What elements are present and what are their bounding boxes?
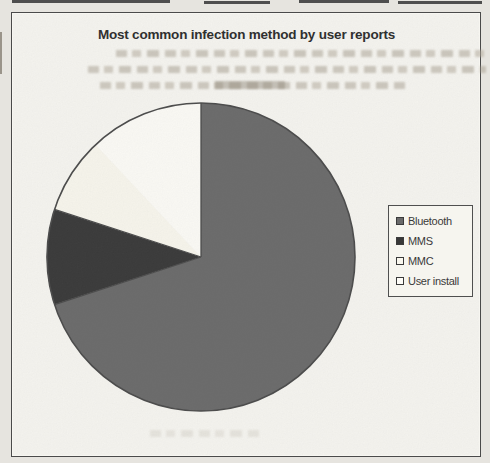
legend-item-bluetooth: Bluetooth: [396, 215, 468, 227]
legend-item-mmc: MMC: [396, 255, 468, 267]
bleedthrough-text-blob: [215, 81, 285, 89]
scan-artifact: [299, 0, 389, 3]
legend-label: MMS: [408, 235, 433, 247]
legend-swatch-mmc: [396, 257, 404, 265]
legend-swatch-user-install: [396, 277, 404, 285]
legend-swatch-mms: [396, 237, 404, 245]
chart-title: Most common infection method by user rep…: [11, 27, 482, 42]
legend: Bluetooth MMS MMC User install: [388, 205, 473, 297]
bleedthrough-text-line: [150, 430, 260, 437]
scan-artifact: [0, 32, 2, 74]
legend-item-mms: MMS: [396, 235, 468, 247]
legend-label: Bluetooth: [408, 215, 452, 227]
legend-swatch-bluetooth: [396, 217, 404, 225]
legend-item-user-install: User install: [396, 275, 468, 287]
scan-artifact: [12, 0, 170, 3]
bleedthrough-text-line: [88, 66, 486, 73]
scan-artifact: [398, 1, 482, 4]
bleedthrough-text-line: [116, 50, 484, 57]
legend-label: User install: [408, 275, 459, 287]
scan-artifact: [204, 1, 270, 4]
scanned-page: Most common infection method by user rep…: [0, 0, 490, 463]
legend-label: MMC: [408, 255, 433, 267]
